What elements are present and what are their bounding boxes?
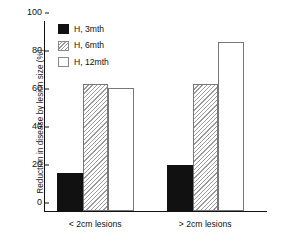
y-tick-mark <box>45 12 49 13</box>
y-tick: 100 <box>27 8 45 17</box>
x-axis-category-label: > 2cm lesions <box>179 219 232 229</box>
legend-label: H, 3mth <box>74 25 104 34</box>
legend-label: H, 12mth <box>74 58 109 67</box>
y-tick-label: 100 <box>27 8 45 17</box>
legend-swatch-icon <box>58 41 69 51</box>
y-tick-mark <box>45 50 49 51</box>
legend-swatch-icon <box>58 24 69 34</box>
y-tick: 20 <box>32 160 45 169</box>
bar <box>108 88 134 212</box>
legend-swatch-icon <box>58 57 69 67</box>
y-tick-label: 60 <box>32 84 45 93</box>
y-tick-label: 80 <box>32 46 45 55</box>
y-tick: 60 <box>32 84 45 93</box>
x-axis-category-label: < 2cm lesions <box>69 219 122 229</box>
legend-item: H, 12mth <box>58 57 109 67</box>
bar <box>83 84 109 211</box>
legend-item: H, 6mth <box>58 41 109 51</box>
y-tick-mark <box>45 88 49 89</box>
y-tick-mark <box>45 126 49 127</box>
bar <box>218 42 244 211</box>
bar <box>167 165 193 211</box>
y-tick-label: 20 <box>32 160 45 169</box>
bar-chart: Reduction in disease by lesion size (%) … <box>0 0 288 242</box>
y-tick: 0 <box>37 198 45 207</box>
bar <box>193 84 219 211</box>
y-tick-mark <box>45 164 49 165</box>
y-tick: 80 <box>32 46 45 55</box>
y-tick: 40 <box>32 122 45 131</box>
bar <box>57 173 83 211</box>
y-tick-mark <box>45 202 49 203</box>
legend: H, 3mthH, 6mthH, 12mth <box>58 24 109 67</box>
legend-label: H, 6mth <box>74 41 104 50</box>
legend-item: H, 3mth <box>58 24 109 34</box>
y-tick-label: 0 <box>37 198 45 207</box>
y-tick-label: 40 <box>32 122 45 131</box>
